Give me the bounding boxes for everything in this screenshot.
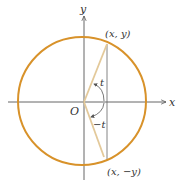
angle-neg-t-arrow-icon <box>91 103 104 117</box>
angle-t-label: t <box>100 77 105 88</box>
upper-point-label: (x, y) <box>105 28 131 39</box>
radius-to-upper-point <box>84 44 107 102</box>
angle-neg-t-label: −t <box>93 119 106 130</box>
lower-point-label: (x, −y) <box>107 166 141 177</box>
origin-label: O <box>70 105 79 118</box>
unit-circle <box>18 37 146 165</box>
unit-circle-diagram: y x O (x, y) (x, −y) t −t <box>0 0 183 183</box>
x-axis-label: x <box>169 96 176 109</box>
y-axis-label: y <box>79 3 87 16</box>
